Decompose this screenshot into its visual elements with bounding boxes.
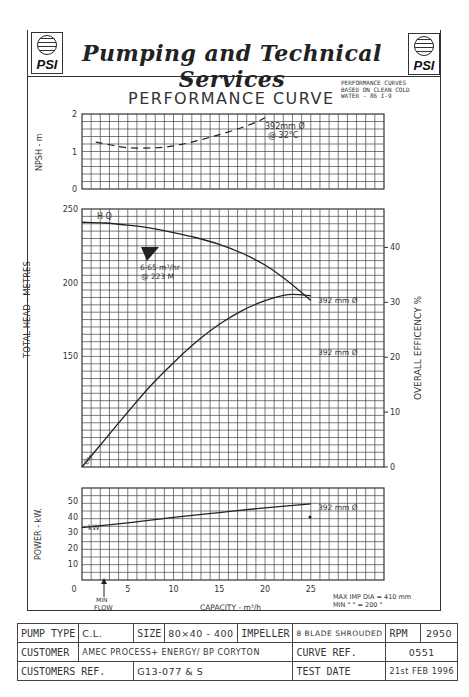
x-tick-label: 10 bbox=[168, 585, 178, 594]
rpm-label: RPM bbox=[386, 624, 421, 643]
npsh-y-tick-label: 1 bbox=[72, 148, 77, 157]
power-axis-label: POWER - kW. bbox=[34, 508, 43, 560]
rpm-value: 2950 bbox=[421, 624, 458, 643]
min-impeller-note: MIN " " = 200 " bbox=[333, 601, 383, 609]
head-y-tick-label: 250 bbox=[63, 205, 78, 214]
head_efficiency-plot-border bbox=[82, 209, 384, 467]
size-value: 80×40 - 400 bbox=[165, 624, 238, 643]
power-curve-label: 392 mm Ø bbox=[318, 503, 358, 512]
efficiency-y-tick-label: 30 bbox=[390, 298, 400, 307]
min-flow-label-2: FLOW bbox=[94, 604, 113, 612]
bep-head-label: @ 223 M bbox=[141, 272, 174, 281]
npsh-y-tick-label: 0 bbox=[72, 185, 77, 194]
pump-type-label: PUMP TYPE bbox=[18, 624, 79, 643]
power-y-tick-label: 20 bbox=[68, 544, 78, 553]
chart-curves bbox=[82, 118, 311, 528]
power-y-tick-label: 30 bbox=[68, 528, 78, 537]
bep-flow-label: 6·65 m³/hr bbox=[140, 263, 181, 272]
head-curve-label: 392 mm Ø bbox=[318, 296, 358, 305]
test-date-value: 21st FEB 1996 bbox=[386, 662, 458, 681]
max-impeller-note: MAX IMP DIA = 410 mm bbox=[333, 593, 411, 601]
performance-chart: 0121502002500102030401020304050051015202… bbox=[0, 0, 469, 620]
hq-label: H Q bbox=[97, 212, 112, 221]
customers-ref-value: G13-077 & S bbox=[134, 662, 293, 681]
npsh-axis-label: NPSH - m bbox=[35, 133, 44, 171]
table-row: PUMP TYPE C.L. SIZE 80×40 - 400 IMPELLER… bbox=[18, 624, 458, 643]
pump-info-table: PUMP TYPE C.L. SIZE 80×40 - 400 IMPELLER… bbox=[17, 623, 458, 681]
test-date-label: TEST DATE bbox=[293, 662, 386, 681]
x-tick-label: 0 bbox=[71, 585, 76, 594]
curve-ref-label: CURVE REF. bbox=[293, 643, 386, 662]
x-tick-label: 25 bbox=[306, 585, 316, 594]
efficiency-y-tick-label: 0 bbox=[390, 463, 395, 472]
npsh-y-tick-label: 2 bbox=[72, 110, 77, 119]
table-row: CUSTOMERS REF. G13-077 & S TEST DATE 21s… bbox=[18, 662, 458, 681]
min-flow-arrowhead-icon bbox=[101, 578, 107, 584]
x-tick-label: 15 bbox=[214, 585, 224, 594]
efficiency-curve-label: 392 mm Ø bbox=[318, 348, 358, 357]
size-label: SIZE bbox=[134, 624, 165, 643]
pump-type-value: C.L. bbox=[79, 624, 134, 643]
head-curve bbox=[82, 222, 311, 300]
power-test-point bbox=[309, 516, 312, 519]
x-tick-label: 5 bbox=[125, 585, 130, 594]
efficiency-y-tick-label: 40 bbox=[390, 243, 400, 252]
efficiency-curve bbox=[82, 294, 311, 467]
efficiency-y-tick-label: 20 bbox=[390, 353, 400, 362]
x-tick-label: 20 bbox=[260, 585, 270, 594]
bep-marker-icon bbox=[141, 247, 159, 261]
customers-ref-label: CUSTOMERS REF. bbox=[18, 662, 134, 681]
customer-value: AMEC PROCESS+ ENERGY/ BP CORYTON bbox=[79, 643, 293, 662]
kw-label: kW bbox=[88, 523, 100, 532]
head-axis-label: TOTAL HEAD - METRES bbox=[22, 261, 32, 359]
curve-ref-value: 0551 bbox=[386, 643, 458, 662]
efficiency-axis-label: OVERALL EFFICENCY % bbox=[413, 295, 423, 400]
customer-label: CUSTOMER bbox=[18, 643, 79, 662]
head-y-tick-label: 200 bbox=[63, 279, 78, 288]
min-flow-label: MIN bbox=[96, 596, 107, 603]
npsh-curve bbox=[96, 118, 265, 148]
power-curve bbox=[82, 504, 311, 528]
x-axis-label: CAPACITY - m³/h bbox=[200, 603, 261, 612]
npsh-temp-label: @ 32°C bbox=[268, 131, 299, 140]
impeller-value: 8 BLADE SHROUDED bbox=[293, 624, 386, 643]
power-y-tick-label: 10 bbox=[68, 560, 78, 569]
npsh-curve-label: 392mm Ø bbox=[265, 121, 305, 131]
head-y-tick-label: 150 bbox=[63, 352, 78, 361]
power-y-tick-label: 50 bbox=[68, 497, 78, 506]
table-row: CUSTOMER AMEC PROCESS+ ENERGY/ BP CORYTO… bbox=[18, 643, 458, 662]
efficiency-y-tick-label: 10 bbox=[390, 408, 400, 417]
power-y-tick-label: 40 bbox=[68, 513, 78, 522]
impeller-label: IMPELLER bbox=[238, 624, 293, 643]
